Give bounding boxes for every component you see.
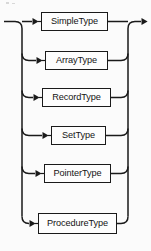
node-box-pointertype[interactable]: PointerType [44, 164, 111, 183]
node-box-settype[interactable]: SetType [51, 126, 106, 145]
node-label-pointertype: PointerType [54, 169, 102, 178]
node-box-recordtype[interactable]: RecordType [42, 88, 111, 107]
syntax-diagram-canvas: SimpleType ArrayType RecordType SetType … [0, 0, 151, 251]
node-label-recordtype: RecordType [52, 93, 101, 102]
scan-artifact-speck [6, 2, 9, 4]
node-box-arraytype[interactable]: ArrayType [45, 51, 108, 70]
node-label-simpletype: SimpleType [51, 17, 98, 26]
node-label-settype: SetType [62, 131, 95, 140]
node-label-arraytype: ArrayType [56, 56, 97, 65]
node-box-simpletype[interactable]: SimpleType [41, 12, 108, 31]
scan-artifact-speck-2 [12, 3, 15, 4]
node-box-proceduretype[interactable]: ProcedureType [38, 213, 117, 234]
node-label-proceduretype: ProcedureType [47, 219, 108, 228]
